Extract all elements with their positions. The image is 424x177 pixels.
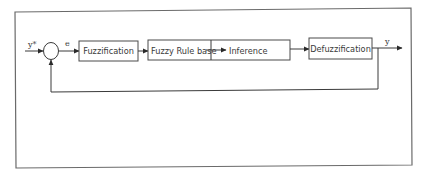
- diagram-frame: [15, 8, 412, 168]
- reference-signal-label: y*: [27, 40, 37, 49]
- summing-junction: [44, 43, 59, 60]
- defuzzification-block: Defuzzification: [309, 38, 372, 59]
- rulebase-inference-block: Fuzzy Rule base Inference: [148, 40, 290, 60]
- fuzzification-label: Fuzzification: [83, 46, 134, 56]
- inference-label: Inference: [229, 46, 267, 56]
- output-signal-label: y: [384, 37, 390, 46]
- fuzzification-block: Fuzzification: [79, 41, 138, 61]
- error-signal-label: e: [65, 39, 70, 48]
- fuzzy-controller-diagram: y* e Fuzzification Fuzzy Rule base Infer…: [0, 0, 424, 177]
- defuzzification-label: Defuzzification: [310, 44, 371, 54]
